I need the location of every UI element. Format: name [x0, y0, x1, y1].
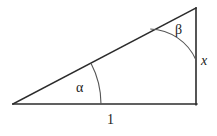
triangle-figure: α β x 1	[0, 0, 217, 136]
angle-alpha-label: α	[76, 81, 83, 95]
angle-beta-label: β	[175, 23, 182, 37]
side-x-label: x	[201, 54, 207, 68]
alpha-angle-arc	[91, 63, 101, 104]
beta-angle-arc	[150, 29, 196, 60]
triangle-hypotenuse-edge	[13, 8, 196, 104]
side-one-label: 1	[107, 113, 114, 127]
